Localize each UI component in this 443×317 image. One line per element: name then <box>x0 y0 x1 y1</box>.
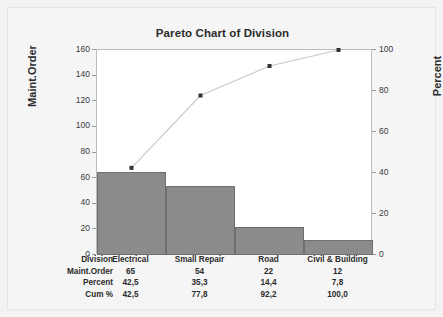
y-axis-left-tick-label: 100 <box>62 121 90 130</box>
cumulative-marker <box>268 64 272 68</box>
table-cell: 14,4 <box>234 277 303 289</box>
y-axis-right-tickmark <box>372 49 376 50</box>
data-table: DivisionElectricalSmall RepairRoadCivil … <box>8 254 437 300</box>
bar <box>235 227 304 255</box>
y-axis-left-tick-label: 120 <box>62 96 90 105</box>
table-cell: 42,5 <box>96 289 165 301</box>
table-cell: Civil & Building <box>303 254 372 266</box>
cumulative-marker <box>199 94 203 98</box>
table-cell: 54 <box>165 266 234 278</box>
pareto-chart-figure: Pareto Chart of Division Maint.Order Per… <box>7 7 436 310</box>
y-axis-left-tick-label: 80 <box>62 147 90 156</box>
y-axis-left-tick-label: 140 <box>62 70 90 79</box>
y-axis-right-tick-label: 80 <box>379 86 407 95</box>
y-axis-right-tick-label: 100 <box>379 45 407 54</box>
y-axis-right-tickmark <box>372 90 376 91</box>
y-axis-right-tickmark <box>372 131 376 132</box>
y-axis-right-tickmark <box>372 213 376 214</box>
y-axis-left-tick-label: 160 <box>62 45 90 54</box>
y-axis-right-tick-label: 60 <box>379 127 407 136</box>
table-cell: 92,2 <box>234 289 303 301</box>
y-axis-right-tick-label: 40 <box>379 168 407 177</box>
cumulative-line <box>132 50 339 168</box>
table-cell: 22 <box>234 266 303 278</box>
y-axis-left-tick-label: 20 <box>62 224 90 233</box>
table-row: Cum %42,577,892,2100,0 <box>8 289 437 301</box>
table-row: Percent42,535,314,47,8 <box>8 277 437 289</box>
table-cell: 77,8 <box>165 289 234 301</box>
table-cell: 42,5 <box>96 277 165 289</box>
screenshot-canvas: Pareto Chart of Division Maint.Order Per… <box>0 0 443 317</box>
y-axis-left-tick-label: 40 <box>62 198 90 207</box>
table-cell: 65 <box>96 266 165 278</box>
table-row: DivisionElectricalSmall RepairRoadCivil … <box>8 254 437 266</box>
table-cell: 12 <box>303 266 372 278</box>
plot-area <box>96 49 372 254</box>
table-row: Maint.Order65542212 <box>8 266 437 278</box>
y-axis-left-tick-label: 60 <box>62 173 90 182</box>
y-axis-right-title: Percent <box>431 0 443 156</box>
table-cell: Electrical <box>96 254 165 266</box>
bar <box>97 172 166 255</box>
table-cell: Road <box>234 254 303 266</box>
page-title: Pareto Chart of Division <box>8 27 437 39</box>
table-cell: 7,8 <box>303 277 372 289</box>
table-cell: 35,3 <box>165 277 234 289</box>
cumulative-marker <box>337 48 341 52</box>
plot-inner <box>97 50 371 253</box>
cumulative-marker <box>130 166 134 170</box>
y-axis-left-title: Maint.Order <box>26 0 38 156</box>
bar <box>304 240 373 255</box>
y-axis-right-tickmark <box>372 172 376 173</box>
y-axis-right-tick-label: 20 <box>379 209 407 218</box>
table-cell: Small Repair <box>165 254 234 266</box>
bar <box>166 186 235 255</box>
table-cell: 100,0 <box>303 289 372 301</box>
